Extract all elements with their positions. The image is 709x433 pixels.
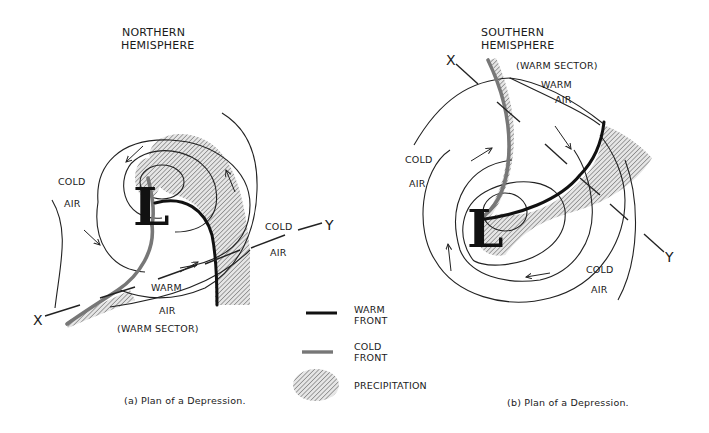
panel-b-title-line1: SOUTHERN: [481, 26, 544, 39]
label-cold-air-a1-line2: AIR: [64, 198, 81, 209]
label-cold-air-b1-line1: COLD: [405, 154, 433, 165]
legend-item-warm-front: WARM FRONT: [306, 304, 387, 326]
label-warm-air-b-line1: WARM: [541, 79, 572, 90]
legend: WARM FRONT COLD FRONT PRECIPITATION: [293, 304, 427, 401]
section-label-y-a: Y: [324, 217, 334, 233]
legend-cold-front-line2: FRONT: [354, 352, 387, 363]
label-cold-air-a2-line2: AIR: [270, 247, 287, 258]
legend-warm-front-line2: FRONT: [354, 315, 387, 326]
section-label-x-b: X: [446, 52, 456, 68]
label-cold-air-a2-line1: COLD: [265, 221, 293, 232]
legend-cold-front-line1: COLD: [354, 341, 382, 352]
section-label-x-a: X: [33, 312, 43, 328]
caption-b: (b) Plan of a Depression.: [507, 397, 629, 408]
panel-b-title-line2: HEMISPHERE: [481, 39, 554, 52]
panel-a-title-line2: HEMISPHERE: [121, 39, 194, 52]
low-pressure-center-b: L: [467, 198, 504, 259]
label-warm-sector-a: (WARM SECTOR): [117, 323, 199, 334]
legend-warm-front-line1: WARM: [354, 304, 385, 315]
label-cold-air-b1-line2: AIR: [409, 178, 426, 189]
label-cold-air-b2-line1: COLD: [586, 264, 614, 275]
label-warm-sector-b: (WARM SECTOR): [516, 60, 598, 71]
low-pressure-center-a: L: [133, 176, 170, 237]
section-label-y-b: Y: [664, 249, 674, 265]
section-line-a: X Y: [33, 217, 334, 328]
label-warm-air-b-line2: AIR: [555, 94, 572, 105]
panel-northern-hemisphere: NORTHERN HEMISPHERE L: [33, 26, 334, 406]
legend-item-cold-front: COLD FRONT: [302, 341, 387, 363]
depression-diagram: NORTHERN HEMISPHERE L: [0, 0, 709, 433]
legend-item-precipitation: PRECIPITATION: [293, 369, 427, 401]
legend-precipitation: PRECIPITATION: [354, 380, 427, 391]
caption-a: (a) Plan of a Depression.: [124, 395, 246, 406]
label-warm-air-a-line2: AIR: [159, 305, 176, 316]
label-cold-air-b2-line2: AIR: [591, 284, 608, 295]
precipitation-symbol: [293, 369, 339, 401]
label-warm-air-a-line1: WARM: [151, 282, 182, 293]
panel-southern-hemisphere: SOUTHERN HEMISPHERE L: [405, 26, 674, 408]
label-cold-air-a1-line1: COLD: [58, 176, 86, 187]
panel-a-title-line1: NORTHERN: [122, 26, 185, 39]
